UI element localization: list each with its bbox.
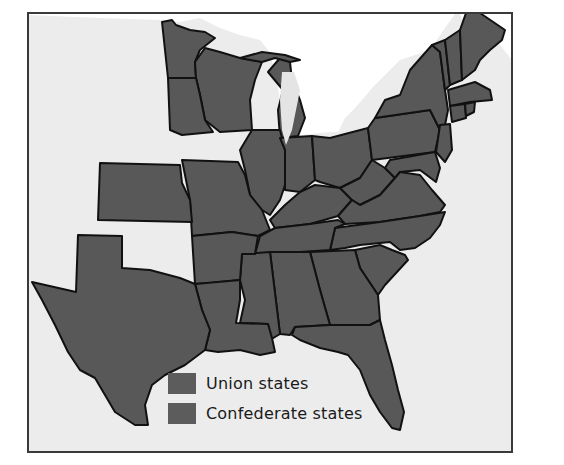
legend-item-confederate: Confederate states — [168, 398, 363, 428]
union-swatch — [168, 373, 196, 394]
legend-item-union: Union states — [168, 368, 363, 398]
confederate-swatch — [168, 403, 196, 424]
legend-label-union: Union states — [206, 374, 309, 393]
legend-label-confederate: Confederate states — [206, 404, 363, 423]
state-connecticut — [450, 104, 466, 122]
state-kansas — [98, 163, 192, 222]
legend: Union states Confederate states — [168, 368, 363, 428]
state-indiana — [280, 136, 315, 192]
